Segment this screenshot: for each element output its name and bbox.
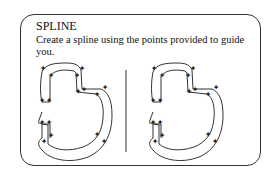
spline-diagrams: ✦ ✦ ✦ ✦ ✦ ✦ ✦ ✦ ✦ ✦ ✦ ✦ ✦ ✦ ✦ ✦: [0, 0, 275, 182]
practice-spline-diagram: [149, 63, 223, 161]
example-spline-diagram: [38, 63, 112, 161]
